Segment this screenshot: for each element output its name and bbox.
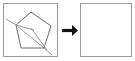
transformation-diagram: Pentagon with crossing chords transforms… — [0, 0, 135, 61]
diagram-canvas — [0, 0, 135, 61]
result-panel-frame — [81, 4, 132, 57]
